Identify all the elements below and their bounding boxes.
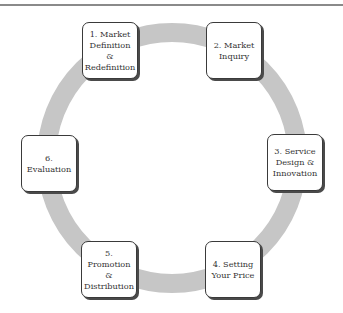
step-box-4-setting-price: 4. Setting Your Price — [205, 241, 261, 298]
step-label: 5. Promotion & Distribution — [83, 248, 135, 292]
step-box-5-promotion-distribution: 5. Promotion & Distribution — [81, 241, 137, 298]
step-label: 6. Evaluation — [23, 153, 75, 175]
step-box-6-evaluation: 6. Evaluation — [21, 135, 77, 192]
step-box-1-market-definition: 1. Market Definition & Redefinition — [82, 22, 138, 79]
step-label: 3. Service Design & Innovation — [273, 146, 317, 179]
step-box-2-market-inquiry: 2. Market Inquiry — [206, 22, 262, 79]
step-label: 2. Market Inquiry — [214, 40, 255, 62]
step-label: 1. Market Definition & Redefinition — [85, 29, 136, 73]
step-box-3-service-design: 3. Service Design & Innovation — [267, 134, 323, 191]
step-label: 4. Setting Your Price — [212, 259, 255, 281]
